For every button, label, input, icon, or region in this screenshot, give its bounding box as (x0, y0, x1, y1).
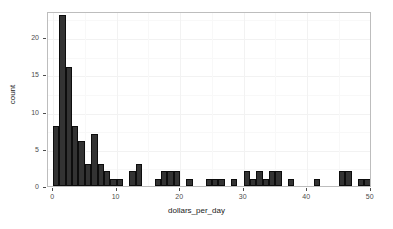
histogram-bar (117, 179, 123, 186)
histogram-bar (345, 171, 351, 186)
y-tick-mark (43, 187, 46, 188)
x-tick-label: 0 (42, 193, 62, 201)
x-tick-mark (52, 188, 53, 191)
x-tick-mark (306, 188, 307, 191)
histogram-bar (364, 179, 370, 186)
x-tick-mark (243, 188, 244, 191)
histogram-bar (231, 179, 237, 186)
x-tick-label: 10 (106, 193, 126, 201)
x-tick-label: 20 (169, 193, 189, 201)
y-tick-label: 15 (19, 71, 39, 79)
y-tick-mark (43, 75, 46, 76)
y-tick-mark (43, 38, 46, 39)
y-tick-label: 5 (19, 146, 39, 154)
x-tick-mark (370, 188, 371, 191)
x-tick-label: 50 (360, 193, 380, 201)
x-tick-mark (179, 188, 180, 191)
histogram-bar (136, 164, 142, 186)
histogram-bar (275, 171, 281, 186)
y-tick-mark (43, 150, 46, 151)
histogram-bar (174, 171, 180, 186)
y-tick-label: 0 (19, 183, 39, 191)
x-axis-title: dollars_per_day (0, 206, 393, 215)
x-tick-label: 40 (296, 193, 316, 201)
histogram-bars (48, 13, 370, 186)
histogram-bar (288, 179, 294, 186)
plot-panel (47, 12, 371, 187)
y-axis-title: count (8, 65, 17, 125)
y-tick-label: 20 (19, 34, 39, 42)
y-tick-label: 10 (19, 109, 39, 117)
histogram-bar (186, 179, 192, 186)
y-tick-mark (43, 113, 46, 114)
histogram-bar (314, 179, 320, 186)
histogram-figure: 05101520 01020304050 dollars_per_day cou… (0, 0, 393, 229)
histogram-bar (218, 179, 224, 186)
x-tick-label: 30 (233, 193, 253, 201)
x-tick-mark (116, 188, 117, 191)
